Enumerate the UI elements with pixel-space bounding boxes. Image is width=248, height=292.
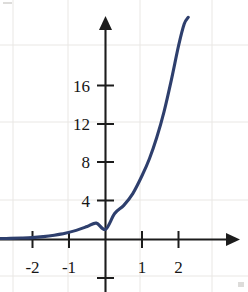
y-tick-label-16: 16 [73,77,90,96]
x-tick-label-1: 1 [138,258,147,277]
y-tick-label-12: 12 [73,115,90,134]
x-tick-label-minus1: -1 [62,258,76,277]
exponential-function-plot: 16 12 8 4 -2 -1 1 2 [0,0,248,292]
x-tick-label-minus2: -2 [25,258,39,277]
y-tick-label-4: 4 [82,192,91,211]
y-tick-label-8: 8 [82,153,91,172]
x-tick-label-2: 2 [174,258,183,277]
plot-background [0,0,248,292]
graph-figure: 16 12 8 4 -2 -1 1 2 [0,0,248,292]
